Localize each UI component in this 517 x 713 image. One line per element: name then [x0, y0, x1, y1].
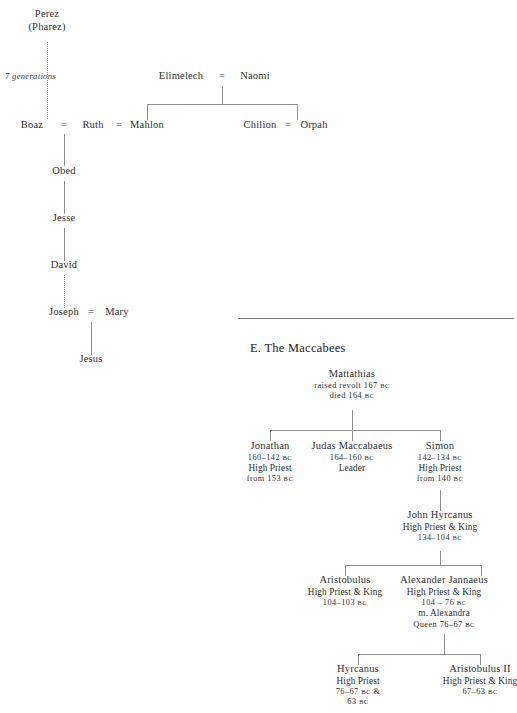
node-john-hyrcanus-dates-text: 134–104	[418, 533, 450, 542]
connector-david-joseph	[64, 275, 65, 308]
node-perez: Perez (Pharez)	[28, 8, 65, 34]
node-simon-role-from-text: from 140	[417, 474, 451, 483]
node-jesus: Jesus	[79, 353, 102, 366]
node-chilion: Chilion	[244, 119, 277, 132]
node-simon-role-from-bc: BC	[454, 475, 464, 482]
node-jonathan: Jonathan 160–142 BC High Priest from 153…	[247, 440, 293, 484]
node-judas-maccabaeus-dates-bc: BC	[365, 454, 375, 461]
node-alexander-jannaeus-dates-bc: BC	[457, 599, 467, 606]
node-jesse-label: Jesse	[53, 212, 76, 225]
node-judas-maccabaeus-label: Judas Maccabaeus	[311, 440, 392, 453]
node-boaz: Boaz	[21, 119, 43, 132]
node-jonathan-dates: 160–142 BC	[247, 453, 293, 463]
node-hyrcanus-dates: 76–67 BC &	[336, 687, 381, 697]
node-orpah: Orpah	[300, 119, 327, 132]
node-hyrcanus-dates2: 63 BC	[336, 697, 381, 707]
connector-sons-bar	[147, 104, 297, 105]
node-jonathan-dates-bc: BC	[283, 454, 293, 461]
node-john-hyrcanus-label: John Hyrcanus	[403, 509, 477, 522]
node-jesse: Jesse	[53, 212, 76, 225]
node-alexander-jannaeus-spouse-title: Queen 76–67 BC	[400, 620, 488, 630]
node-ruth: Ruth	[82, 119, 103, 132]
node-mary-label: Mary	[105, 306, 129, 319]
node-alexander-jannaeus-spouse: m. Alexandra	[400, 608, 488, 619]
node-aristobulus-dates-text: 104–103	[323, 598, 355, 607]
node-david: David	[51, 259, 78, 272]
node-mary: Mary	[105, 306, 129, 319]
node-mattathias-line2-bc: BC	[365, 392, 375, 399]
node-hyrcanus-dates-suffix: &	[373, 687, 380, 696]
node-hyrcanus-dates-bc: BC	[361, 688, 371, 695]
node-aristobulus-ii-label: Aristobulus II	[443, 663, 517, 676]
node-david-label: David	[51, 259, 78, 272]
node-jonathan-role-from-bc: BC	[284, 475, 294, 482]
marriage-elimelech-naomi: =	[219, 70, 225, 81]
node-mattathias: Mattathias raised revolt 167 BC died 164…	[314, 368, 390, 401]
node-judas-maccabaeus-dates: 164–160 BC	[311, 453, 392, 463]
node-aristobulus-ii: Aristobulus II High Priest & King 67–63 …	[443, 663, 517, 697]
node-aristobulus-label: Aristobulus	[308, 574, 382, 587]
connector-final-horizontal	[358, 654, 480, 655]
connector-jesse-david	[64, 228, 65, 261]
node-mahlon: Mahlon	[130, 119, 164, 132]
node-joseph-label: Joseph	[49, 306, 79, 319]
connector-mattathias-bar	[352, 410, 353, 430]
node-judas-maccabaeus: Judas Maccabaeus 164–160 BC Leader	[311, 440, 392, 474]
node-jonathan-label: Jonathan	[247, 440, 293, 453]
node-obed-label: Obed	[52, 165, 76, 178]
section-divider-rule	[238, 318, 514, 319]
node-hyrcanus-dates2-bc: BC	[359, 698, 369, 705]
node-alexander-jannaeus-role: High Priest & King	[400, 587, 488, 598]
node-alexander-jannaeus-label: Alexander Jannaeus	[400, 574, 488, 587]
node-mattathias-line1: raised revolt 167 BC	[314, 381, 390, 391]
label-seven-generations: 7 generations	[5, 71, 56, 81]
node-jonathan-dates-text: 160–142	[248, 453, 280, 462]
node-ruth-label: Ruth	[82, 119, 103, 132]
connector-john-hyrcanus-bar	[440, 551, 441, 565]
marriage-ruth-mahlon: =	[116, 119, 122, 130]
connector-boaz-obed	[64, 134, 65, 166]
node-alexander-jannaeus-dates: 104 – 76 BC	[400, 598, 488, 608]
node-hyrcanus-role: High Priest	[336, 676, 381, 687]
node-obed: Obed	[52, 165, 76, 178]
node-aristobulus-role: High Priest & King	[308, 587, 382, 598]
connector-bar-mahlon	[147, 104, 148, 120]
connector-elimelech-bar	[222, 86, 223, 104]
node-mattathias-line1-text: raised revolt 167	[314, 381, 377, 390]
node-jonathan-role: High Priest	[247, 463, 293, 474]
node-jonathan-role-from-text: from 153	[247, 474, 281, 483]
node-mattathias-line1-bc: BC	[380, 382, 390, 389]
node-simon-label: Simon	[417, 440, 463, 453]
node-john-hyrcanus-dates-bc: BC	[453, 534, 463, 541]
node-aristobulus-ii-dates: 67–63 BC	[443, 687, 517, 697]
connector-joseph-jesus	[91, 322, 92, 355]
node-alexander-jannaeus: Alexander Jannaeus High Priest & King 10…	[400, 574, 488, 630]
node-aristobulus-dates-bc: BC	[358, 599, 368, 606]
node-aristobulus-ii-dates-text: 67–63	[462, 687, 485, 696]
node-hyrcanus-dates-text: 76–67	[336, 687, 359, 696]
node-simon-dates: 142–134 BC	[417, 453, 463, 463]
node-joseph: Joseph	[49, 306, 79, 319]
node-mattathias-line2: died 164 BC	[314, 391, 390, 401]
node-aristobulus-dates: 104–103 BC	[308, 598, 382, 608]
section-heading-maccabees: E. The Maccabees	[250, 341, 346, 356]
node-elimelech: Elimelech	[159, 70, 203, 83]
connector-simon-john-hyrcanus	[440, 490, 441, 511]
node-judas-maccabaeus-role: Leader	[311, 463, 392, 474]
node-perez-line2: (Pharez)	[28, 21, 65, 34]
connector-obed-jesse	[64, 181, 65, 214]
node-aristobulus-ii-dates-bc: BC	[488, 688, 498, 695]
marriage-boaz-ruth: =	[61, 119, 67, 130]
node-simon-dates-text: 142–134	[418, 453, 450, 462]
marriage-joseph-mary: =	[88, 306, 94, 317]
node-mattathias-line2-text: died 164	[330, 391, 362, 400]
node-mahlon-label: Mahlon	[130, 119, 164, 132]
node-aristobulus-ii-role: High Priest & King	[443, 676, 517, 687]
node-judas-maccabaeus-dates-text: 164–160	[330, 453, 362, 462]
node-orpah-label: Orpah	[300, 119, 327, 132]
node-naomi-label: Naomi	[240, 70, 270, 83]
connector-sons-horizontal	[270, 430, 440, 431]
connector-alexander-bar	[444, 634, 445, 654]
node-simon-role: High Priest	[417, 463, 463, 474]
